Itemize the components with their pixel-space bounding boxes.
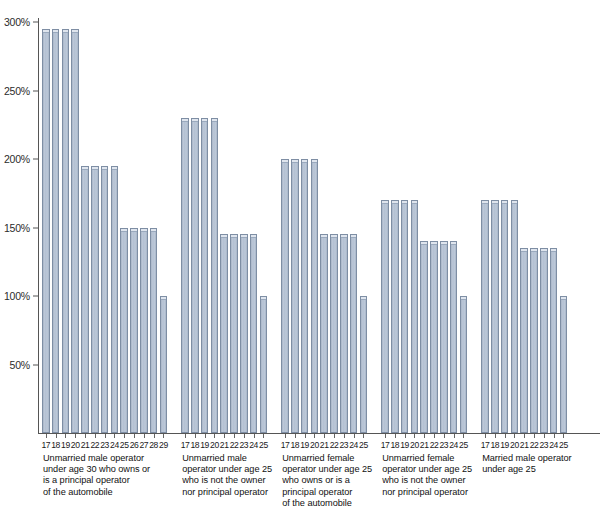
- bar: [320, 234, 328, 433]
- x-axis-tick-label: 27: [139, 440, 148, 450]
- x-axis-tick-label: 20: [210, 440, 219, 450]
- x-axis-tick-label: 26: [130, 440, 139, 450]
- y-axis-tick-label: 100%: [4, 290, 30, 302]
- bar: [430, 241, 438, 433]
- x-axis-tick-mark: [295, 434, 296, 438]
- bar: [440, 241, 448, 433]
- x-axis-tick-label: 21: [220, 440, 229, 450]
- bar: [520, 248, 528, 433]
- x-axis-tick-mark: [344, 434, 345, 438]
- x-axis-tick-mark: [544, 434, 545, 438]
- y-axis-tick-label: 250%: [4, 85, 30, 97]
- x-axis-tick-label: 18: [390, 440, 399, 450]
- x-axis-tick-label: 18: [51, 440, 60, 450]
- x-axis-tick-mark: [195, 434, 196, 438]
- bar: [91, 166, 99, 433]
- bar: [530, 248, 538, 433]
- bar: [511, 200, 519, 433]
- bar: [62, 29, 70, 433]
- x-axis-tick-mark: [524, 434, 525, 438]
- x-axis-tick-label: 25: [259, 440, 268, 450]
- bar: [52, 29, 60, 433]
- x-axis-tick-label: 21: [420, 440, 429, 450]
- bar: [560, 296, 568, 433]
- x-axis-tick-label: 25: [559, 440, 568, 450]
- y-axis-tick-label: 150%: [4, 222, 30, 234]
- group-caption: Unmarried male operator under age 30 who…: [43, 453, 198, 498]
- x-axis-tick-label: 21: [81, 440, 90, 450]
- x-axis-tick-mark: [254, 434, 255, 438]
- x-axis-tick-mark: [46, 434, 47, 438]
- bar: [491, 200, 499, 433]
- x-axis-tick-label: 25: [120, 440, 129, 450]
- x-axis-tick-mark: [263, 434, 264, 438]
- bar: [350, 234, 358, 433]
- x-axis-tick-label: 24: [349, 440, 358, 450]
- bar: [240, 234, 248, 433]
- bar: [230, 234, 238, 433]
- x-axis-tick-mark: [134, 434, 135, 438]
- x-axis-tick-mark: [554, 434, 555, 438]
- x-axis-tick-label: 18: [190, 440, 199, 450]
- bar: [501, 200, 509, 433]
- x-axis-tick-mark: [514, 434, 515, 438]
- x-axis-tick-mark: [414, 434, 415, 438]
- bar: [130, 228, 138, 434]
- bar: [401, 200, 409, 433]
- x-axis-tick-mark: [163, 434, 164, 438]
- x-axis-tick-label: 29: [159, 440, 168, 450]
- x-axis-tick-mark: [534, 434, 535, 438]
- bar: [150, 228, 158, 434]
- bar: [540, 248, 548, 433]
- x-axis-tick-mark: [324, 434, 325, 438]
- bar: [250, 234, 258, 433]
- x-axis-tick-label: 22: [530, 440, 539, 450]
- group-caption: Married male operator under age 25: [482, 453, 598, 475]
- x-axis-tick-label: 25: [359, 440, 368, 450]
- x-axis-tick-label: 23: [539, 440, 548, 450]
- bar: [381, 200, 389, 433]
- bar: [391, 200, 399, 433]
- x-axis-tick-mark: [485, 434, 486, 438]
- x-axis-tick-label: 24: [110, 440, 119, 450]
- y-axis-tick-mark: [33, 90, 38, 91]
- x-axis-tick-mark: [85, 434, 86, 438]
- x-axis-tick-label: 28: [149, 440, 158, 450]
- x-axis-tick-label: 23: [339, 440, 348, 450]
- x-axis-tick-mark: [385, 434, 386, 438]
- x-axis-tick-mark: [305, 434, 306, 438]
- group-caption: Unmarried female operator under age 25 w…: [382, 453, 498, 498]
- bar: [360, 296, 368, 433]
- bar: [81, 166, 89, 433]
- bar: [550, 248, 558, 433]
- x-axis-tick-label: 22: [430, 440, 439, 450]
- x-axis-tick-label: 17: [381, 440, 390, 450]
- x-axis-tick-label: 17: [41, 440, 50, 450]
- x-axis-tick-label: 23: [239, 440, 248, 450]
- x-axis-tick-mark: [314, 434, 315, 438]
- bar: [260, 296, 268, 433]
- x-axis-tick-mark: [434, 434, 435, 438]
- x-axis-tick-mark: [354, 434, 355, 438]
- bar: [411, 200, 419, 433]
- y-axis-tick-mark: [33, 364, 38, 365]
- bar: [101, 166, 109, 433]
- x-axis-tick-label: 24: [249, 440, 258, 450]
- x-axis-tick-label: 20: [71, 440, 80, 450]
- bar: [111, 166, 119, 433]
- bar: [450, 241, 458, 433]
- x-axis-tick-label: 21: [320, 440, 329, 450]
- bar: [311, 159, 319, 433]
- x-axis-tick-mark: [285, 434, 286, 438]
- bar: [330, 234, 338, 433]
- bar: [120, 228, 128, 434]
- bar: [42, 29, 50, 433]
- x-axis-tick-mark: [234, 434, 235, 438]
- y-axis-tick-mark: [33, 159, 38, 160]
- x-axis-tick-label: 24: [449, 440, 458, 450]
- x-axis-tick-mark: [214, 434, 215, 438]
- bar: [301, 159, 309, 433]
- x-axis-tick-mark: [495, 434, 496, 438]
- x-axis-tick-mark: [185, 434, 186, 438]
- x-axis-tick-mark: [563, 434, 564, 438]
